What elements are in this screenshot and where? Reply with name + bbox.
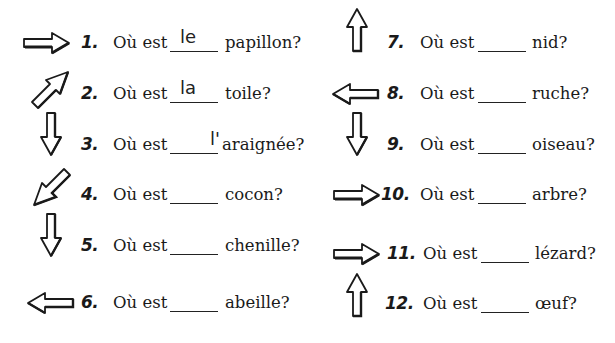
- answer-blank[interactable]: la: [170, 102, 218, 103]
- question-prompt: Où est: [113, 33, 167, 52]
- question-1: 1. Où est le papillon?: [0, 29, 310, 59]
- question-9: 9. Où est oiseau?: [305, 131, 615, 161]
- question-prompt: Où est: [420, 33, 474, 52]
- arrow-right-icon: [22, 31, 72, 55]
- question-noun: abeille?: [225, 293, 290, 312]
- question-10: 10. Où est arbre?: [305, 181, 615, 211]
- question-prompt: Où est: [420, 84, 474, 103]
- answer-blank[interactable]: [170, 311, 218, 312]
- question-4: 4. Où est cocon?: [0, 181, 310, 211]
- question-number: 5.: [81, 235, 98, 255]
- answer-blank[interactable]: [481, 312, 529, 313]
- answer-blank[interactable]: [170, 203, 218, 204]
- question-5: 5. Où est chenille?: [0, 232, 310, 262]
- question-number: 1.: [81, 32, 98, 52]
- question-number: 11.: [387, 243, 416, 263]
- question-prompt: Où est: [113, 84, 167, 103]
- answer-blank[interactable]: l': [170, 153, 218, 154]
- question-2: 2. Où est la toile?: [0, 80, 310, 110]
- question-number: 12.: [385, 293, 414, 313]
- arrow-down-icon: [39, 111, 63, 157]
- question-number: 9.: [387, 134, 404, 154]
- answer-blank[interactable]: [481, 262, 529, 263]
- question-prompt: Où est: [113, 236, 167, 255]
- question-noun: araignée?: [222, 135, 304, 154]
- question-noun: ruche?: [532, 84, 589, 103]
- question-noun: lézard?: [535, 244, 596, 263]
- answer-blank[interactable]: [478, 153, 526, 154]
- question-number: 7.: [387, 32, 404, 52]
- question-noun: papillon?: [225, 33, 301, 52]
- answer-blank[interactable]: [478, 51, 526, 52]
- question-prompt: Où est: [423, 244, 477, 263]
- question-3: 3. Où est l' araignée?: [0, 131, 310, 161]
- question-prompt: Où est: [113, 135, 167, 154]
- question-number: 2.: [81, 83, 98, 103]
- arrow-up-icon: [345, 272, 369, 318]
- question-8: 8. Où est ruche?: [305, 80, 615, 110]
- question-noun: nid?: [532, 33, 567, 52]
- question-noun: œuf?: [535, 294, 577, 313]
- question-number: 10.: [381, 184, 410, 204]
- question-6: 6. Où est abeille?: [0, 289, 310, 319]
- question-number: 3.: [81, 134, 98, 154]
- question-prompt: Où est: [420, 135, 474, 154]
- question-number: 8.: [387, 83, 404, 103]
- question-number: 6.: [81, 292, 98, 312]
- question-prompt: Où est: [423, 294, 477, 313]
- answer-blank[interactable]: [170, 254, 218, 255]
- question-number: 4.: [81, 184, 98, 204]
- question-12: 12. Où est œuf?: [305, 290, 615, 320]
- answer-text: l': [210, 128, 220, 149]
- arrow-right-icon: [332, 183, 382, 207]
- question-noun: chenille?: [225, 236, 300, 255]
- arrow-down-icon: [39, 212, 63, 258]
- arrow-left-icon: [330, 82, 380, 106]
- question-noun: oiseau?: [532, 135, 595, 154]
- question-prompt: Où est: [113, 293, 167, 312]
- question-noun: cocon?: [225, 185, 283, 204]
- arrow-right-icon: [332, 242, 382, 266]
- arrow-down-left-icon: [30, 165, 74, 209]
- question-noun: toile?: [225, 84, 271, 103]
- question-prompt: Où est: [420, 185, 474, 204]
- answer-blank[interactable]: [478, 102, 526, 103]
- question-11: 11. Où est lézard?: [305, 240, 615, 270]
- question-prompt: Où est: [113, 185, 167, 204]
- question-7: 7. Où est nid?: [305, 29, 615, 59]
- answer-text: la: [180, 77, 196, 98]
- answer-blank[interactable]: le: [170, 51, 218, 52]
- answer-blank[interactable]: [478, 203, 526, 204]
- arrow-left-icon: [25, 291, 75, 315]
- arrow-down-icon: [345, 111, 369, 157]
- answer-text: le: [180, 26, 196, 47]
- arrow-up-icon: [345, 7, 369, 53]
- arrow-up-right-icon: [28, 68, 72, 112]
- question-noun: arbre?: [532, 185, 587, 204]
